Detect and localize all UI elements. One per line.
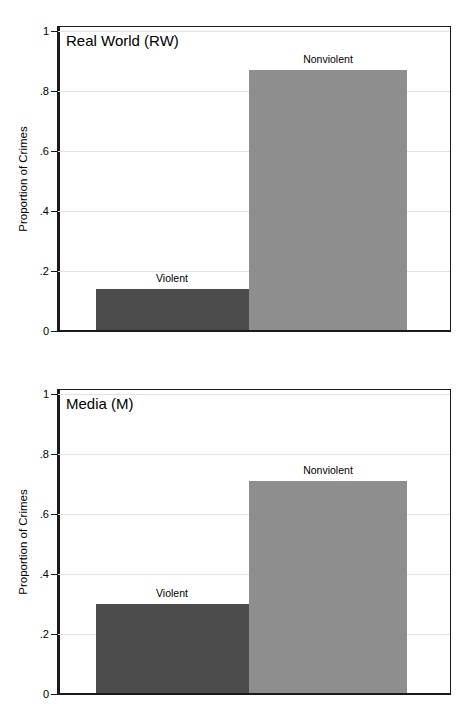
y-axis-title-wrapper: Proportion of Crimes xyxy=(12,26,26,332)
tick-mark-02 xyxy=(51,271,57,272)
plot-inner-real-world: 1 .8 .6 .4 .2 0 Violent Nonviolent xyxy=(58,31,450,331)
bar-nonviolent[interactable] xyxy=(249,481,407,694)
panel-media: Proportion of Crimes 1 .8 .6 .4 xyxy=(0,363,467,726)
y-tick-label-0: 0 xyxy=(43,326,49,337)
x-axis-baseline xyxy=(57,693,450,695)
y-axis-title-wrapper: Proportion of Crimes xyxy=(12,389,26,695)
y-tick-label-04: .4 xyxy=(40,206,49,217)
y-axis-title: Proportion of Crimes xyxy=(16,389,30,695)
tick-mark-06 xyxy=(51,151,57,152)
bar-violent[interactable] xyxy=(96,289,249,331)
y-tick-label-06: .6 xyxy=(40,146,49,157)
plot-area-real-world: 1 .8 .6 .4 .2 0 Violent Nonviolent Real … xyxy=(57,26,451,332)
y-tick-label-1: 1 xyxy=(43,389,49,400)
gridline-08 xyxy=(58,454,450,455)
y-tick-label-08: .8 xyxy=(40,449,49,460)
figure-proportion-of-crimes: Proportion of Crimes 1 .8 .6 .4 xyxy=(0,0,467,726)
y-tick-label-06: .6 xyxy=(40,509,49,520)
plot-inner-media: 1 .8 .6 .4 .2 0 Violent Nonviolent xyxy=(58,394,450,694)
tick-mark-08 xyxy=(51,91,57,92)
tick-mark-04 xyxy=(51,574,57,575)
bar-label-violent: Violent xyxy=(156,273,188,284)
x-axis-baseline xyxy=(57,330,450,332)
tick-mark-02 xyxy=(51,634,57,635)
bar-nonviolent[interactable] xyxy=(249,70,407,331)
bar-violent[interactable] xyxy=(96,604,249,694)
panel-title-real-world: Real World (RW) xyxy=(66,32,179,49)
tick-mark-1 xyxy=(51,394,57,395)
tick-mark-06 xyxy=(51,514,57,515)
y-tick-label-0: 0 xyxy=(43,689,49,700)
plot-area-media: 1 .8 .6 .4 .2 0 Violent Nonviolent Media… xyxy=(57,389,451,695)
y-tick-label-1: 1 xyxy=(43,26,49,37)
panel-title-media: Media (M) xyxy=(66,395,134,412)
bar-label-nonviolent: Nonviolent xyxy=(303,54,353,65)
tick-mark-08 xyxy=(51,454,57,455)
bar-label-violent: Violent xyxy=(156,588,188,599)
bar-label-nonviolent: Nonviolent xyxy=(303,465,353,476)
tick-mark-1 xyxy=(51,31,57,32)
y-tick-label-02: .2 xyxy=(40,266,49,277)
panel-real-world: Proportion of Crimes 1 .8 .6 .4 xyxy=(0,0,467,363)
y-tick-label-08: .8 xyxy=(40,86,49,97)
y-tick-label-02: .2 xyxy=(40,629,49,640)
y-tick-label-04: .4 xyxy=(40,569,49,580)
tick-mark-04 xyxy=(51,211,57,212)
y-axis-title: Proportion of Crimes xyxy=(16,26,30,332)
